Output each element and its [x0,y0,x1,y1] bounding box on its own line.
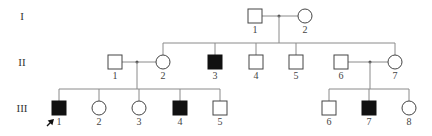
male-square [334,55,348,69]
male-square [248,9,262,23]
male-square [249,55,263,69]
generation-label: III [17,102,28,114]
affected-male-square [208,55,222,69]
individual-i-2: 2 [298,9,312,35]
individual-ii-1: 1 [108,55,122,81]
male-square [322,101,336,115]
individual-iii-4: 4 [173,101,187,127]
female-circle [402,101,416,115]
pedigree-diagram: IIIIII12123456712345678 [0,0,432,136]
individual-number: 5 [218,116,223,127]
individual-ii-6: 6 [334,55,348,81]
individual-iii-7: 7 [362,101,376,127]
individual-number: 3 [137,116,142,127]
male-square [108,55,122,69]
individual-number: 7 [393,70,398,81]
affected-male-square [362,101,376,115]
individual-number: 2 [161,70,166,81]
individual-iii-5: 5 [213,101,227,127]
individual-number: 4 [254,70,259,81]
female-circle [298,9,312,23]
individual-iii-2: 2 [92,101,106,127]
male-square [289,55,303,69]
female-circle [388,55,402,69]
affected-male-square [173,101,187,115]
individual-i-1: 1 [248,9,262,35]
individual-ii-2: 2 [156,55,170,81]
individual-number: 1 [113,70,118,81]
individual-ii-3: 3 [208,55,222,81]
individual-number: 6 [327,116,332,127]
individual-number: 7 [367,116,372,127]
individual-number: 1 [253,24,258,35]
individual-number: 8 [407,116,412,127]
individual-number: 2 [303,24,308,35]
individual-number: 4 [178,116,183,127]
individual-iii-6: 6 [322,101,336,127]
male-square [213,101,227,115]
individual-iii-1: 1 [47,101,66,127]
individual-number: 2 [97,116,102,127]
individual-number: 3 [213,70,218,81]
individual-ii-4: 4 [249,55,263,81]
individual-iii-3: 3 [132,101,146,127]
individual-ii-5: 5 [289,55,303,81]
individual-number: 1 [57,116,62,127]
individual-number: 5 [294,70,299,81]
proband-arrow-icon [47,120,53,126]
individual-number: 6 [339,70,344,81]
generation-label: I [20,10,24,22]
affected-male-square [52,101,66,115]
individual-ii-7: 7 [388,55,402,81]
generation-label: II [18,56,26,68]
individual-iii-8: 8 [402,101,416,127]
female-circle [156,55,170,69]
female-circle [92,101,106,115]
female-circle [132,101,146,115]
